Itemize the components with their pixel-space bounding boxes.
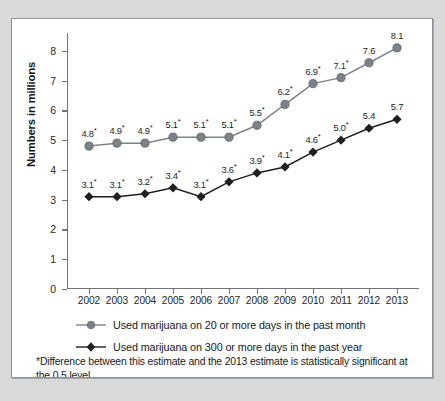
x-tick-label: 2008: [246, 295, 268, 306]
x-tick-label: 2005: [162, 295, 184, 306]
x-tick: [341, 289, 342, 294]
legend-label-series-1: Used marijuana on 20 or more days in the…: [113, 319, 365, 331]
chart-frame: Numbers in millions 012345678 2002200320…: [11, 18, 433, 378]
data-point-label: 3.6*: [221, 166, 236, 175]
data-point-label: 4.1*: [277, 151, 292, 160]
y-tick-label: 7: [50, 75, 56, 86]
y-tick-label: 5: [50, 135, 56, 146]
data-point-diamond[interactable]: [196, 192, 205, 201]
data-point-circle[interactable]: [309, 80, 317, 88]
x-tick: [173, 289, 174, 294]
x-tick: [117, 289, 118, 294]
data-point-circle[interactable]: [113, 139, 121, 147]
data-point-label: 5.1*: [221, 121, 236, 130]
footnote: *Difference between this estimate and th…: [36, 355, 414, 378]
data-point-circle[interactable]: [85, 142, 93, 150]
data-point-label: 4.9*: [109, 127, 124, 136]
x-tick: [285, 289, 286, 294]
x-tick: [145, 289, 146, 294]
y-tick-label: 6: [50, 105, 56, 116]
data-point-diamond[interactable]: [224, 177, 233, 186]
x-tick-label: 2012: [358, 295, 380, 306]
x-tick: [369, 289, 370, 294]
data-point-label: 3.1*: [109, 180, 124, 189]
x-tick-label: 2009: [274, 295, 296, 306]
legend-item-series-2[interactable]: Used marijuana on 300 or more days in th…: [74, 337, 414, 357]
y-tick-label: 0: [50, 284, 56, 295]
x-tick-label: 2013: [386, 295, 408, 306]
data-point-label: 3.2*: [137, 177, 152, 186]
x-tick-label: 2004: [134, 295, 156, 306]
y-tick-label: 3: [50, 194, 56, 205]
series-line: [89, 48, 397, 146]
x-tick: [201, 289, 202, 294]
y-tick: 0: [62, 289, 67, 290]
data-point-diamond[interactable]: [252, 168, 261, 177]
x-tick: [89, 289, 90, 294]
x-tick-label: 2010: [302, 295, 324, 306]
data-point-label: 5.1*: [193, 121, 208, 130]
data-point-diamond[interactable]: [336, 136, 345, 145]
data-point-circle[interactable]: [365, 59, 373, 67]
legend-item-series-1[interactable]: Used marijuana on 20 or more days in the…: [74, 315, 414, 335]
y-tick-label: 1: [50, 254, 56, 265]
data-point-diamond[interactable]: [364, 124, 373, 133]
data-point-diamond[interactable]: [392, 115, 401, 124]
data-point-diamond[interactable]: [140, 189, 149, 198]
data-point-circle[interactable]: [253, 121, 261, 129]
x-tick-label: 2007: [218, 295, 240, 306]
y-tick-label: 2: [50, 224, 56, 235]
data-point-label: 3.1*: [193, 180, 208, 189]
data-point-circle[interactable]: [225, 133, 233, 141]
x-tick-label: 2006: [190, 295, 212, 306]
data-point-label: 8.1: [391, 32, 403, 41]
data-point-label: 4.6*: [305, 136, 320, 145]
data-point-label: 5.1*: [165, 121, 180, 130]
x-tick: [397, 289, 398, 294]
circle-marker-icon: [74, 318, 108, 332]
x-tick: [257, 289, 258, 294]
data-point-label: 3.1*: [81, 180, 96, 189]
data-point-label: 7.6: [363, 46, 375, 55]
data-point-label: 6.9*: [305, 67, 320, 76]
x-tick-label: 2002: [78, 295, 100, 306]
data-point-circle[interactable]: [169, 133, 177, 141]
data-point-diamond[interactable]: [280, 162, 289, 171]
legend: Used marijuana on 20 or more days in the…: [74, 315, 414, 359]
data-point-label: 5.4: [363, 112, 375, 121]
data-point-circle[interactable]: [281, 100, 289, 108]
data-point-label: 7.1*: [333, 61, 348, 70]
data-point-label: 6.2*: [277, 88, 292, 97]
data-point-circle[interactable]: [393, 44, 401, 52]
series-lines: [67, 33, 419, 289]
data-point-circle[interactable]: [337, 74, 345, 82]
data-point-circle[interactable]: [141, 139, 149, 147]
x-tick-label: 2003: [106, 295, 128, 306]
data-point-label: 3.9*: [249, 157, 264, 166]
data-point-label: 5.5*: [249, 109, 264, 118]
figure-root: Numbers in millions 012345678 2002200320…: [0, 0, 445, 401]
x-tick: [229, 289, 230, 294]
y-axis-title: Numbers in millions: [25, 62, 37, 167]
data-point-label: 4.9*: [137, 127, 152, 136]
data-point-label: 5.7: [391, 103, 403, 112]
data-point-label: 4.8*: [81, 130, 96, 139]
data-point-label: 3.4*: [165, 171, 180, 180]
data-point-diamond[interactable]: [84, 192, 93, 201]
data-point-diamond[interactable]: [168, 183, 177, 192]
data-point-circle[interactable]: [197, 133, 205, 141]
data-point-diamond[interactable]: [308, 147, 317, 156]
data-point-diamond[interactable]: [112, 192, 121, 201]
data-point-label: 5.0*: [333, 124, 348, 133]
y-tick-label: 8: [50, 46, 56, 57]
diamond-marker-icon: [74, 340, 108, 354]
legend-label-series-2: Used marijuana on 300 or more days in th…: [113, 341, 362, 353]
y-tick-label: 4: [50, 165, 56, 176]
x-tick: [313, 289, 314, 294]
x-tick-label: 2011: [330, 295, 352, 306]
plot-area: 012345678 200220032004200520062007200820…: [67, 33, 419, 289]
